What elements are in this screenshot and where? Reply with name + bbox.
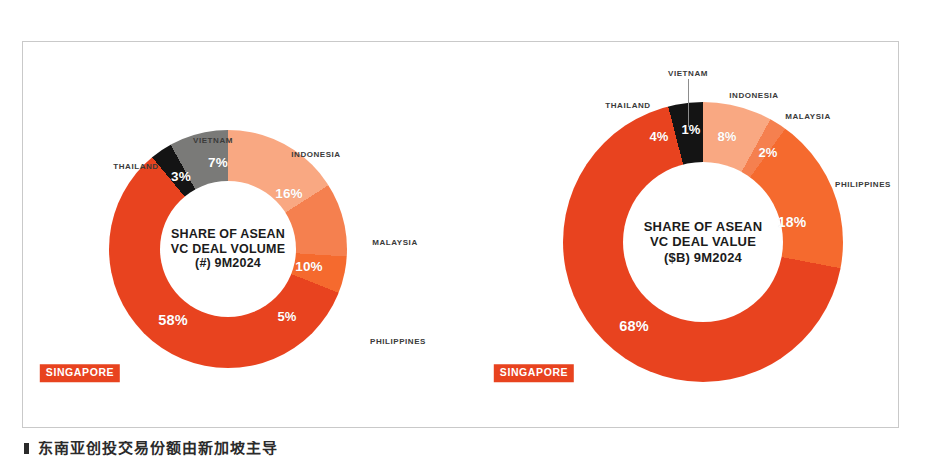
slice-label-malaysia: 2% <box>758 145 777 160</box>
donut-volume-center: SHARE OF ASEAN VC DEAL VOLUME (#) 9M2024 <box>160 181 296 317</box>
category-label-vietnam: VIETNAM <box>193 136 233 145</box>
caption-text: 东南亚创投交易份额由新加坡主导 <box>38 441 278 457</box>
slice-label-singapore: 68% <box>619 318 649 334</box>
slice-label-thailand: 3% <box>171 169 191 184</box>
category-label-vietnam: VIETNAM <box>668 69 708 78</box>
center-line-2: VC DEAL VOLUME <box>171 242 285 257</box>
slice-label-indonesia: 8% <box>717 129 736 144</box>
category-chip-singapore: SINGAPORE <box>40 364 120 382</box>
slice-label-philippines: 5% <box>277 309 296 324</box>
center-line-1: SHARE OF ASEAN <box>171 227 285 242</box>
category-label-malaysia: MALAYSIA <box>785 112 830 121</box>
slice-label-malaysia: 10% <box>295 259 323 274</box>
category-chip-singapore: SINGAPORE <box>494 364 574 382</box>
square-bullet-icon <box>24 443 29 454</box>
center-line-1: SHARE OF ASEAN <box>644 219 763 234</box>
category-label-indonesia: INDONESIA <box>291 150 340 159</box>
slice-label-indonesia: 16% <box>275 186 303 201</box>
center-line-3: ($B) 9M2024 <box>664 250 742 265</box>
slice-label-thailand: 4% <box>649 129 668 144</box>
vc-deal-value-chart: SHARE OF ASEAN VC DEAL VALUE ($B) 9M2024… <box>463 42 900 427</box>
category-label-thailand: THAILAND <box>113 162 158 171</box>
caption-text-row: 东南亚创投交易份额由新加坡主导 <box>24 441 278 457</box>
slice-label-singapore: 58% <box>158 312 188 328</box>
slice-label-philippines: 18% <box>778 214 807 230</box>
slice-label-vietnam: 7% <box>208 155 228 170</box>
donut-value-center: SHARE OF ASEAN VC DEAL VALUE ($B) 9M2024 <box>623 162 783 322</box>
vc-deal-volume-chart: SHARE OF ASEAN VC DEAL VOLUME (#) 9M2024… <box>23 42 463 427</box>
chart-panel: SHARE OF ASEAN VC DEAL VOLUME (#) 9M2024… <box>22 41 899 428</box>
category-label-malaysia: MALAYSIA <box>372 238 417 247</box>
slice-label-vietnam: 1% <box>681 122 700 137</box>
category-label-philippines: PHILIPPINES <box>370 337 426 346</box>
vietnam-leader-line <box>688 79 689 127</box>
center-line-2: VC DEAL VALUE <box>650 234 756 249</box>
donut-value: SHARE OF ASEAN VC DEAL VALUE ($B) 9M2024… <box>563 102 843 382</box>
category-label-indonesia: INDONESIA <box>729 91 778 100</box>
category-label-thailand: THAILAND <box>605 101 650 110</box>
caption-strip: 东南亚创投交易份额由新加坡主导 <box>0 441 928 457</box>
center-line-3: (#) 9M2024 <box>195 256 261 271</box>
category-label-philippines: PHILIPPINES <box>835 180 891 189</box>
